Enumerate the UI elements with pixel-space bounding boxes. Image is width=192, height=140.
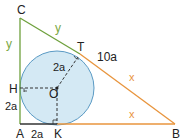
label-T: T xyxy=(77,40,85,54)
label-O: O xyxy=(49,87,58,101)
label-H: H xyxy=(9,82,18,96)
label-10a: 10a xyxy=(97,50,117,64)
label-x-base: x xyxy=(129,108,135,120)
label-x-hyp: x xyxy=(129,71,135,83)
label-B: B xyxy=(172,127,180,140)
label-y-left: y xyxy=(6,37,12,51)
side-CT xyxy=(20,18,80,54)
label-K: K xyxy=(54,127,62,140)
label-2a-HA: 2a xyxy=(5,100,18,112)
label-y-top: y xyxy=(55,21,61,35)
label-2a-AK: 2a xyxy=(31,128,44,140)
label-C: C xyxy=(17,3,26,17)
label-2a-OT: 2a xyxy=(53,61,66,73)
label-A: A xyxy=(16,127,24,140)
triangle-diagram: C T H O A K B y y 10a x x 2a 2a 2a xyxy=(0,0,192,140)
